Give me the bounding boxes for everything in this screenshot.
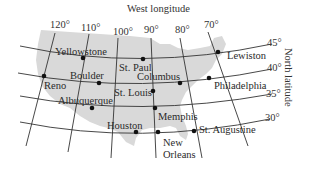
- city-label-orleans: Orleans: [163, 149, 196, 160]
- longitude-label-120: 120°: [50, 19, 70, 30]
- city-label-houston: Houston: [107, 120, 143, 131]
- latitude-label-30: 30°: [265, 112, 280, 123]
- latitude-label-40: 40°: [267, 62, 282, 73]
- city-label-albuquerque: Albuquerque: [58, 95, 113, 106]
- west-longitude-title: West longitude: [127, 3, 190, 14]
- city-label-st-louis: St. Louis: [114, 87, 152, 98]
- city-label-reno: Reno: [44, 80, 66, 91]
- north-latitude-title: North latitude: [283, 48, 294, 107]
- city-label-lewiston: Lewiston: [227, 50, 266, 61]
- city-label-new: New: [163, 137, 183, 148]
- latitude-label-45: 45°: [267, 37, 282, 48]
- latitude-longitude-map: West longitude North latitude 120° 110° …: [0, 0, 313, 169]
- longitude-label-100: 100°: [113, 26, 133, 37]
- city-label-philadelphia: Philadelphia: [214, 80, 267, 91]
- longitude-label-90: 90°: [144, 24, 159, 35]
- city-label-yellowstone: Yellowstone: [55, 46, 107, 57]
- city-label-columbus: Columbus: [137, 71, 180, 82]
- longitude-label-110: 110°: [81, 22, 101, 33]
- city-label-boulder: Boulder: [70, 70, 104, 81]
- city-label-memphis: Memphis: [158, 111, 198, 122]
- longitude-label-80: 80°: [175, 24, 190, 35]
- city-label-st-augustine: St. Augustine: [199, 124, 256, 135]
- longitude-label-70: 70°: [204, 19, 219, 30]
- latitude-label-35: 35°: [266, 88, 281, 99]
